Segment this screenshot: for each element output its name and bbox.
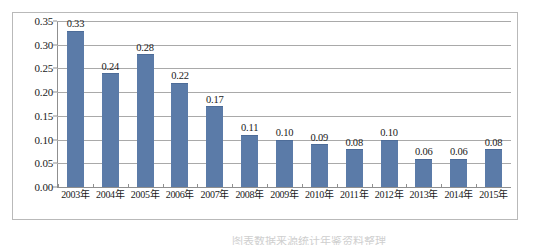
bar-slot: 0.33 xyxy=(58,21,93,187)
bar-value-label: 0.17 xyxy=(206,95,224,106)
bar xyxy=(276,140,293,187)
bars-group: 0.330.240.280.220.170.110.100.090.080.10… xyxy=(58,21,511,187)
x-tick-label-text: 2015年 xyxy=(479,189,508,200)
bar xyxy=(311,144,328,187)
bar xyxy=(241,135,258,187)
y-tick-mark xyxy=(53,21,57,22)
y-tick-label: 0.05 xyxy=(35,158,53,169)
bar-slot: 0.06 xyxy=(406,21,441,187)
caption-scrap: 图表数据来源统计年鉴资料整理 xyxy=(232,236,412,245)
bar-value-label: 0.28 xyxy=(136,43,154,54)
bar-value-label: 0.06 xyxy=(415,147,433,158)
x-tick-label: 2003年 xyxy=(58,189,93,200)
bar xyxy=(450,159,467,187)
bar-slot: 0.22 xyxy=(163,21,198,187)
x-tick-label-text: 2013年 xyxy=(410,189,439,200)
x-tick-label: 2006年 xyxy=(163,189,198,200)
bar-value-label: 0.09 xyxy=(311,133,329,144)
bar-slot: 0.11 xyxy=(232,21,267,187)
bar-value-label: 0.22 xyxy=(171,71,189,82)
x-tick-label-text: 2011年 xyxy=(340,189,368,200)
bar xyxy=(171,83,188,187)
bar-slot: 0.06 xyxy=(441,21,476,187)
y-tick-label: 0.15 xyxy=(35,110,53,121)
y-tick-label: 0.25 xyxy=(35,63,53,74)
bar xyxy=(415,159,432,187)
x-tick-label-text: 2014年 xyxy=(444,189,473,200)
x-tick-mark xyxy=(163,184,164,188)
x-tick-label: 2014年 xyxy=(441,189,476,200)
x-tick-label: 2009年 xyxy=(267,189,302,200)
bar-value-label: 0.10 xyxy=(380,128,398,139)
x-tick-label: 2011年 xyxy=(337,189,372,200)
x-tick-mark xyxy=(58,184,59,188)
x-tick-mark xyxy=(406,184,407,188)
x-tick-label: 2005年 xyxy=(128,189,163,200)
bar-value-label: 0.08 xyxy=(345,138,363,149)
y-tick-label: 0.35 xyxy=(35,16,53,27)
x-tick-label: 2008年 xyxy=(232,189,267,200)
x-tick-mark xyxy=(128,184,129,188)
bar-slot: 0.28 xyxy=(128,21,163,187)
y-tick-label: 0.20 xyxy=(35,87,53,98)
bar xyxy=(137,54,154,187)
x-tick-label: 2010年 xyxy=(302,189,337,200)
x-axis-labels: 2003年2004年2005年2006年2007年2008年2009年2010年… xyxy=(58,189,511,207)
y-tick-label: 0.30 xyxy=(35,39,53,50)
x-tick-label-text: 2010年 xyxy=(305,189,334,200)
bar-slot: 0.10 xyxy=(267,21,302,187)
y-tick-label: 0.10 xyxy=(35,134,53,145)
x-tick-mark xyxy=(197,184,198,188)
y-tick-mark xyxy=(53,115,57,116)
bar xyxy=(206,106,223,187)
x-tick-label: 2004年 xyxy=(93,189,128,200)
bar-slot: 0.08 xyxy=(476,21,511,187)
bar xyxy=(102,73,119,187)
bar xyxy=(346,149,363,187)
x-tick-mark xyxy=(441,184,442,188)
y-tick-mark xyxy=(53,139,57,140)
x-tick-label-text: 2005年 xyxy=(131,189,160,200)
x-tick-label-text: 2009年 xyxy=(270,189,299,200)
x-tick-label-text: 2012年 xyxy=(375,189,404,200)
y-tick-mark xyxy=(53,163,57,164)
bar-value-label: 0.08 xyxy=(485,138,503,149)
bar xyxy=(67,31,84,188)
x-tick-mark xyxy=(267,184,268,188)
bar-slot: 0.08 xyxy=(337,21,372,187)
plot-area: 0.000.050.100.150.200.250.300.35 0.330.2… xyxy=(57,21,511,187)
x-tick-mark xyxy=(476,184,477,188)
bar-slot: 0.17 xyxy=(197,21,232,187)
bar-value-label: 0.06 xyxy=(450,147,468,158)
y-tick-mark xyxy=(53,187,57,188)
gridline xyxy=(57,187,511,188)
x-tick-label-text: 2007年 xyxy=(201,189,230,200)
x-tick-label: 2015年 xyxy=(476,189,511,200)
bar xyxy=(381,140,398,187)
y-tick-mark xyxy=(53,44,57,45)
x-tick-label: 2007年 xyxy=(197,189,232,200)
bar-slot: 0.24 xyxy=(93,21,128,187)
chart-frame: 0.000.050.100.150.200.250.300.35 0.330.2… xyxy=(12,12,518,220)
bar-value-label: 0.11 xyxy=(241,123,258,134)
y-tick-label: 0.00 xyxy=(35,182,53,193)
bar-slot: 0.09 xyxy=(302,21,337,187)
bar-value-label: 0.10 xyxy=(276,128,294,139)
x-tick-label-text: 2006年 xyxy=(166,189,195,200)
x-tick-label: 2013年 xyxy=(406,189,441,200)
y-tick-mark xyxy=(53,68,57,69)
x-tick-mark xyxy=(302,184,303,188)
x-tick-label-text: 2003年 xyxy=(61,189,90,200)
x-tick-label-text: 2008年 xyxy=(235,189,264,200)
bar xyxy=(485,149,502,187)
x-tick-mark xyxy=(337,184,338,188)
x-tick-mark xyxy=(372,184,373,188)
y-tick-mark xyxy=(53,92,57,93)
x-tick-mark xyxy=(93,184,94,188)
x-tick-label: 2012年 xyxy=(372,189,407,200)
x-tick-label-text: 2004年 xyxy=(96,189,125,200)
x-tick-mark xyxy=(232,184,233,188)
bar-value-label: 0.33 xyxy=(67,19,85,30)
bar-value-label: 0.24 xyxy=(101,62,119,73)
bar-slot: 0.10 xyxy=(372,21,407,187)
